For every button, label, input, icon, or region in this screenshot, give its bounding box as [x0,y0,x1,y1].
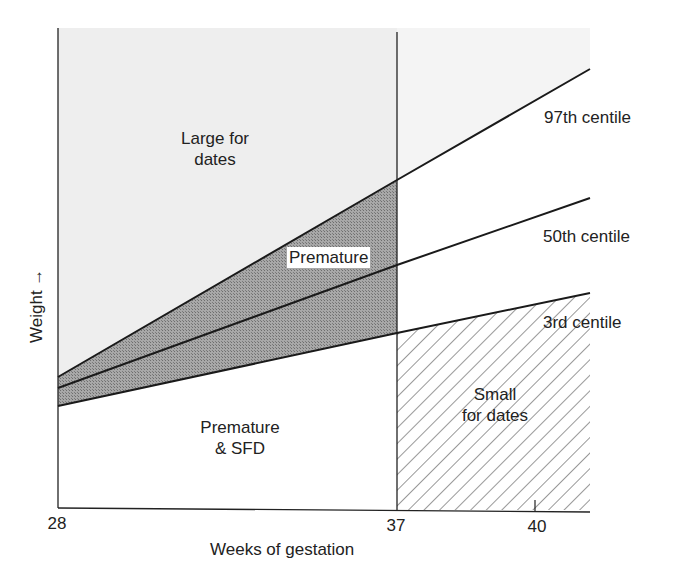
premature-sfd-line2: & SFD [175,438,305,459]
premature-sfd-line1: Premature [175,417,305,438]
large-for-dates-line2: dates [150,149,280,170]
tick-label-40: 40 [528,517,547,537]
centile-3-label: 3rd centile [543,312,621,333]
y-axis-title: Weight → [27,269,47,343]
large-for-dates-line1: Large for [150,128,280,149]
small-for-dates-line2: for dates [440,405,550,426]
tick-label-37: 37 [387,516,406,536]
premature-label: Premature [287,247,370,268]
small-for-dates-label: Small for dates [440,384,550,426]
growth-chart [0,0,681,588]
tick-label-28: 28 [48,514,67,534]
premature-sfd-label: Premature & SFD [175,417,305,459]
small-for-dates-line1: Small [440,384,550,405]
centile-97-label: 97th centile [544,107,631,128]
centile-50-label: 50th centile [543,226,630,247]
x-axis-title: Weeks of gestation [210,539,354,560]
large-for-dates-label: Large for dates [150,128,280,170]
large-for-dates-region-right [397,28,590,180]
